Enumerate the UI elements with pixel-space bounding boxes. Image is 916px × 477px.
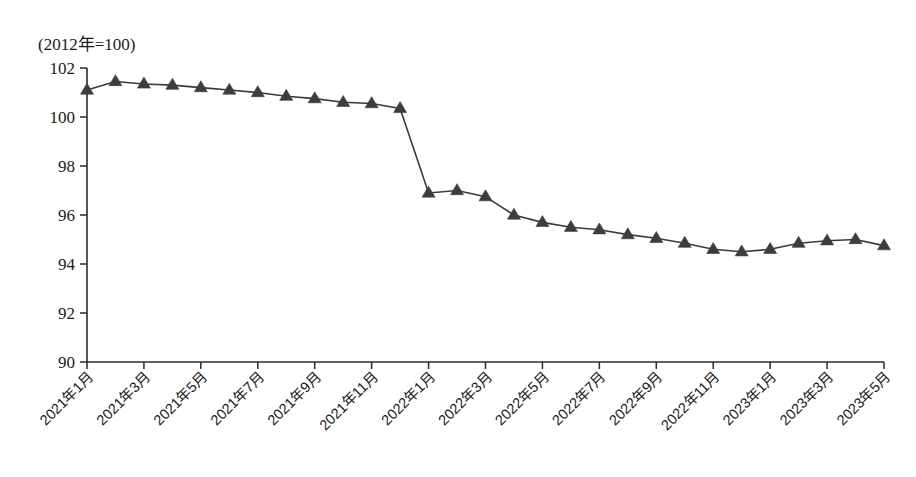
x-tick-label: 2023年3月: [777, 369, 837, 429]
x-tick-label: 2022年1月: [378, 369, 438, 429]
data-point-marker: [251, 86, 264, 97]
data-point-marker: [194, 81, 207, 92]
y-tick-label: 94: [58, 255, 76, 274]
y-tick-label: 98: [58, 157, 75, 176]
data-point-markers: [81, 75, 891, 256]
x-tick-label: 2022年5月: [492, 369, 552, 429]
data-point-marker: [849, 233, 862, 244]
x-tick-label: 2021年5月: [150, 369, 210, 429]
x-tick-label: 2022年11月: [658, 369, 723, 434]
y-tick-label: 102: [50, 59, 76, 78]
data-point-marker: [821, 234, 834, 245]
data-point-marker: [735, 245, 748, 256]
x-tick-label: 2023年5月: [833, 369, 893, 429]
x-tick-label: 2021年7月: [207, 369, 267, 429]
y-tick-label: 92: [58, 304, 75, 323]
y-tick-label: 90: [58, 353, 75, 372]
data-point-marker: [223, 83, 236, 94]
line-chart-plot: 9092949698100102 2021年1月2021年3月2021年5月20…: [0, 0, 916, 477]
data-series-line: [87, 81, 884, 251]
x-tick-label: 2021年11月: [316, 369, 381, 434]
x-tick-label: 2022年9月: [606, 369, 666, 429]
y-tick-label: 96: [58, 206, 75, 225]
y-axis-ticks: 9092949698100102: [50, 59, 88, 372]
data-point-marker: [422, 186, 435, 197]
data-point-marker: [166, 78, 179, 89]
x-tick-label: 2021年3月: [93, 369, 153, 429]
data-point-marker: [308, 92, 321, 103]
data-point-marker: [792, 236, 805, 247]
x-axis-labels: 2021年1月2021年3月2021年5月2021年7月2021年9月2021年…: [36, 369, 893, 434]
data-point-marker: [365, 97, 378, 108]
data-point-marker: [451, 184, 464, 195]
chart-container: (2012年=100) 9092949698100102 2021年1月2021…: [0, 0, 916, 477]
x-axis-ticks: [87, 362, 884, 369]
x-tick-label: 2021年1月: [36, 369, 96, 429]
data-point-marker: [137, 77, 150, 88]
data-point-marker: [593, 223, 606, 234]
x-tick-label: 2021年9月: [264, 369, 324, 429]
data-point-marker: [109, 75, 122, 86]
x-tick-label: 2023年1月: [720, 369, 780, 429]
x-tick-label: 2022年3月: [435, 369, 495, 429]
y-tick-label: 100: [50, 108, 76, 127]
data-point-marker: [507, 208, 520, 219]
x-tick-label: 2022年7月: [549, 369, 609, 429]
